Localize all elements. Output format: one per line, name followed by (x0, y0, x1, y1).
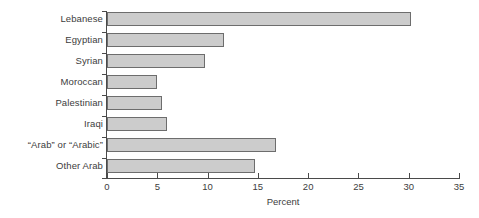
x-axis-tick-label: 0 (92, 181, 122, 192)
y-axis-tick (102, 53, 107, 54)
y-axis-tick (102, 158, 107, 159)
bar-syrian (107, 54, 205, 68)
plot-area (107, 12, 459, 178)
bar-lebanese (107, 12, 411, 26)
category-label: Iraqi (0, 119, 103, 129)
category-label: Moroccan (0, 77, 103, 87)
x-axis-tick-label: 5 (142, 181, 172, 192)
category-label: Syrian (0, 56, 103, 66)
x-axis-tick-label: 10 (193, 181, 223, 192)
x-axis-tick (208, 173, 209, 178)
bar-iraqi (107, 117, 167, 131)
x-axis-tick (459, 173, 460, 178)
category-label: Lebanese (0, 14, 103, 24)
x-axis-tick-label: 35 (444, 181, 474, 192)
bar-other-arab (107, 159, 255, 173)
y-axis-tick (102, 74, 107, 75)
category-label: Palestinian (0, 98, 103, 108)
y-axis-tick (102, 32, 107, 33)
x-axis-tick-label: 20 (293, 181, 323, 192)
x-axis-tick (258, 173, 259, 178)
x-axis-tick (308, 173, 309, 178)
bar-chart: Lebanese Egyptian Syrian Moroccan Palest… (0, 0, 479, 218)
x-axis-tick (358, 173, 359, 178)
category-label: Other Arab (0, 161, 103, 171)
x-axis-tick-label: 25 (343, 181, 373, 192)
category-label: “Arab” or “Arabic” (0, 140, 103, 150)
bar-palestinian (107, 96, 162, 110)
y-axis-tick (102, 137, 107, 138)
bar-egyptian (107, 33, 224, 47)
x-axis-tick (107, 173, 108, 178)
y-axis-tick (102, 11, 107, 12)
bar-moroccan (107, 75, 157, 89)
category-axis-labels: Lebanese Egyptian Syrian Moroccan Palest… (0, 12, 103, 178)
bar-arab-or-arabic (107, 138, 276, 152)
y-axis-tick (102, 95, 107, 96)
x-axis-line (106, 178, 460, 179)
y-axis-tick (102, 116, 107, 117)
category-label: Egyptian (0, 35, 103, 45)
x-axis-tick (409, 173, 410, 178)
x-axis-tick-label: 15 (243, 181, 273, 192)
x-axis-tick (157, 173, 158, 178)
x-axis-title: Percent (107, 196, 459, 207)
x-axis-tick-label: 30 (394, 181, 424, 192)
